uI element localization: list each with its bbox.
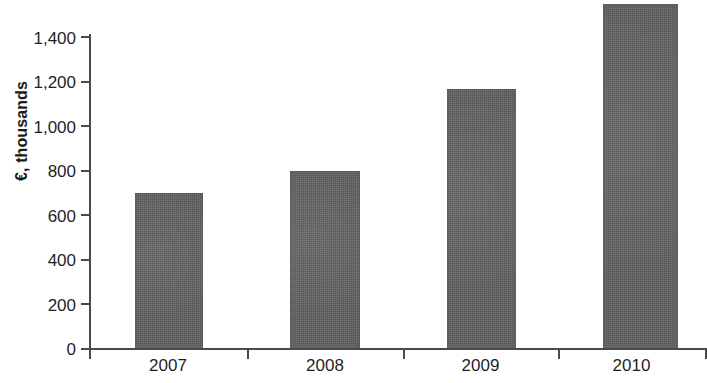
- y-axis-tick-label: 0: [14, 341, 76, 358]
- bar-2007: [135, 193, 203, 350]
- y-axis-tick-label: 200: [14, 297, 76, 314]
- y-axis-tick-label: 600: [14, 208, 76, 225]
- y-axis-tick-label: 1,400: [14, 30, 76, 47]
- y-axis-line: [89, 34, 91, 351]
- x-axis-tick-label-2009: 2009: [403, 357, 558, 374]
- bar-chart-figure: €, thousands 1,400 1,200 1,000 800 600 4…: [0, 0, 707, 383]
- y-axis-tick-label: 400: [14, 252, 76, 269]
- bar-2008: [290, 171, 360, 349]
- x-axis-tick-label-2007: 2007: [89, 357, 247, 374]
- y-axis-tick-label: 800: [14, 163, 76, 180]
- y-axis-tick-label: 1,000: [14, 119, 76, 136]
- x-axis-line: [89, 348, 707, 350]
- y-axis-tick-label: 1,200: [14, 74, 76, 91]
- bar-2009: [447, 89, 516, 349]
- x-axis-tick-label-2010: 2010: [558, 357, 705, 374]
- y-axis-tick-label-group: 1,400 1,200 1,000 800 600 400 200 0: [14, 0, 76, 383]
- x-axis-tick-label-2008: 2008: [247, 357, 403, 374]
- bar-2010: [603, 4, 678, 349]
